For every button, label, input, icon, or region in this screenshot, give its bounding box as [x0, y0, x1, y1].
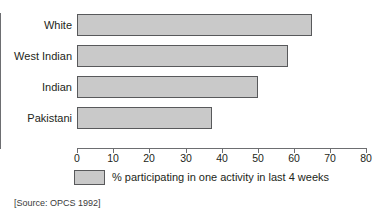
x-axis-tick-label: 70: [315, 152, 345, 164]
legend-label: % participating in one activity in last …: [112, 171, 329, 184]
chart-legend: % participating in one activity in last …: [74, 170, 329, 185]
source-note: [Source: OPCS 1992]: [14, 198, 101, 209]
category-label-pakistani: Pakistani: [0, 112, 72, 125]
legend-swatch-icon: [74, 170, 105, 185]
x-axis-tick-label: 0: [62, 152, 92, 164]
bar-white[interactable]: [77, 14, 312, 36]
x-axis-tick-label: 60: [279, 152, 309, 164]
category-label-west-indian: West Indian: [0, 50, 72, 63]
bar-indian[interactable]: [77, 76, 258, 98]
x-axis-tick-label: 30: [171, 152, 201, 164]
bar-west-indian[interactable]: [77, 45, 288, 67]
x-axis-tick-label: 20: [134, 152, 164, 164]
x-axis-tick-label: 80: [351, 152, 381, 164]
x-axis-tick-label: 10: [98, 152, 128, 164]
x-axis-tick-label: 40: [207, 152, 237, 164]
category-label-white: White: [0, 19, 72, 32]
bar-pakistani[interactable]: [77, 107, 212, 129]
x-axis-tick-label: 50: [243, 152, 273, 164]
bar-chart-figure: White West Indian Indian Pakistani 0 10 …: [0, 0, 390, 218]
category-label-indian: Indian: [0, 81, 72, 94]
